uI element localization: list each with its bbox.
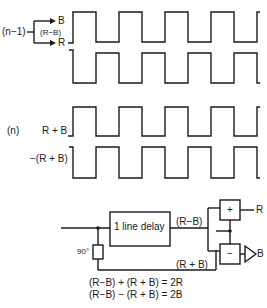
buffer-triangle-icon: [245, 246, 256, 262]
subtractor-label: −: [227, 249, 233, 259]
waveform-r-plus-b: [68, 107, 260, 136]
adder-output-label: R: [256, 205, 263, 215]
label-n-minus-1: (n−1): [2, 27, 26, 37]
label-minus-r-plus-b: −(R + B): [30, 154, 68, 164]
junction-dot: [228, 229, 232, 233]
subtractor-output-label: B: [257, 249, 264, 259]
phase-shift-label: 90°: [77, 248, 89, 256]
label-n: (n): [7, 126, 19, 136]
label-b: B: [58, 16, 65, 26]
label-r: R: [58, 38, 65, 48]
delay-block-label: 1 line delay: [114, 222, 165, 232]
arrow-b-icon: [50, 18, 56, 24]
waveform-lower-n-minus-1: [69, 50, 260, 83]
equation-sum: (R−B) + (R + B) = 2R: [89, 278, 183, 288]
arrow-r-icon: [50, 40, 56, 46]
waveform-minus-r-plus-b: [69, 147, 260, 178]
equation-difference: (R−B) − (R + B) = 2B: [89, 290, 182, 300]
bypass-label: (R + B): [176, 260, 208, 270]
adder-label: +: [227, 205, 233, 215]
phase-shift-block: [93, 245, 103, 259]
junction-dot: [96, 226, 100, 230]
label-r-plus-b: R + B: [42, 126, 67, 136]
waveform-upper-n-minus-1: [68, 12, 260, 43]
label-r-minus-b: (R−B): [40, 29, 61, 37]
delay-output-label: (R−B): [176, 217, 202, 227]
